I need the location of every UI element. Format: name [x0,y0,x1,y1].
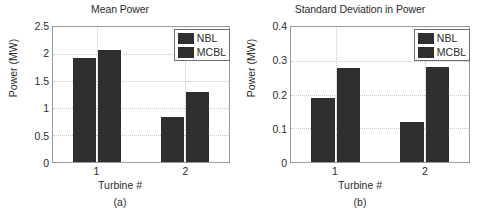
x-axis-ticks-b: 1 2 [290,165,470,179]
x-tick-label: 1 [94,165,100,177]
y-axis-ticks-b: 0.4 0.3 0.2 0.1 0 [250,26,287,163]
x-axis-label-b: Turbine # [240,179,480,191]
bar-turbine2-mcbl [186,92,209,162]
y-tick-label: 1.5 [34,75,49,87]
legend-label: MCBL [197,47,226,58]
bar-turbine2-nbl [400,122,423,163]
legend-label: MCBL [437,47,466,58]
x-axis-ticks-a: 1 2 [52,165,230,179]
legend-a: NBL MCBL [174,29,230,61]
y-tick-label: 0 [281,157,287,169]
y-tick-label: 0.4 [272,20,287,32]
panel-a: Mean Power Power (MW) 2.5 2 1.5 1 0.5 0 [0,0,240,217]
y-axis-ticks-a: 2.5 2 1.5 1 0.5 0 [12,26,49,163]
y-tick-label: 1 [43,102,49,114]
legend-swatch-icon [178,33,194,44]
legend-item-mcbl: MCBL [178,46,226,58]
y-tick-label: 2.5 [34,20,49,32]
y-tick-label: 0 [43,157,49,169]
legend-label: NBL [437,33,457,44]
chart-title-a: Mean Power [0,3,240,15]
bar-turbine1-mcbl [98,50,121,162]
panel-caption-a: (a) [0,196,240,208]
legend-label: NBL [197,33,217,44]
legend-item-nbl: NBL [178,32,226,44]
chart-title-b: Standard Deviation in Power [240,3,480,15]
y-tick-label: 0.3 [272,54,287,66]
legend-b: NBL MCBL [414,29,470,61]
legend-swatch-icon [178,47,194,58]
x-axis-label-a: Turbine # [0,179,240,191]
legend-swatch-icon [418,47,434,58]
bar-turbine1-nbl [311,98,334,162]
y-tick-label: 2 [43,47,49,59]
bar-turbine1-nbl [73,58,96,162]
y-tick-label: 0.1 [272,123,287,135]
x-tick-label: 2 [183,165,189,177]
bar-turbine2-mcbl [426,67,449,162]
x-tick-label: 2 [422,165,428,177]
y-tick-label: 0.2 [272,89,287,101]
figure-two-panel-bar-charts: Mean Power Power (MW) 2.5 2 1.5 1 0.5 0 [0,0,480,217]
panel-b: Standard Deviation in Power Power (MW) 0… [240,0,480,217]
legend-swatch-icon [418,33,434,44]
panel-caption-b: (b) [240,196,480,208]
y-tick-label: 0.5 [34,130,49,142]
x-tick-label: 1 [332,165,338,177]
bar-turbine2-nbl [161,117,184,162]
bar-turbine1-mcbl [337,68,360,163]
legend-item-mcbl: MCBL [418,46,466,58]
legend-item-nbl: NBL [418,32,466,44]
